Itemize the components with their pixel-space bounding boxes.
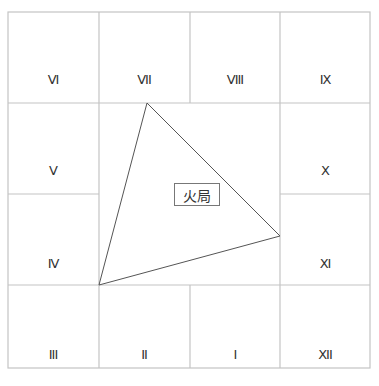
cell-label-xi: XI: [320, 256, 331, 271]
fire-trine-label: 火局: [174, 183, 220, 206]
cell-label-viii: VIII: [227, 72, 244, 87]
cell-label-v: V: [49, 163, 58, 178]
cell-label-vii: VII: [137, 72, 151, 87]
cell-label-xii: XII: [318, 347, 332, 362]
cell-label-iii: III: [49, 347, 58, 362]
cell-label-ii: II: [141, 347, 147, 362]
cell-label-ix: IX: [320, 72, 332, 87]
cell-label-i: I: [234, 347, 237, 362]
cell-label-x: X: [321, 163, 330, 178]
cell-label-iv: IV: [48, 256, 60, 271]
cell-label-vi: VI: [48, 72, 59, 87]
